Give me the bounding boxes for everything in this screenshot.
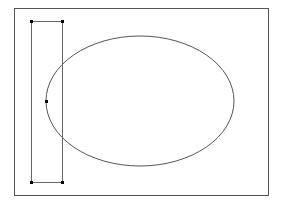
ellipse-shape[interactable] bbox=[46, 36, 234, 166]
resize-handle-bottom-left[interactable] bbox=[30, 181, 33, 184]
resize-handle-top-left[interactable] bbox=[30, 20, 33, 23]
canvas-frame bbox=[15, 9, 269, 196]
anchor-handle-ellipse-left[interactable] bbox=[45, 100, 48, 103]
resize-handle-bottom-right[interactable] bbox=[61, 181, 64, 184]
resize-handle-top-right[interactable] bbox=[61, 20, 64, 23]
drawing-canvas[interactable] bbox=[0, 0, 283, 202]
